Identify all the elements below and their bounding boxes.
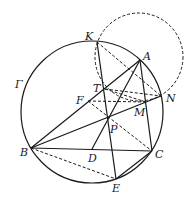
point-label-C: C (155, 148, 164, 161)
point-label-K: K (84, 30, 94, 43)
point-label-N: N (165, 92, 176, 105)
segment-BN (31, 96, 161, 148)
point-label-P: P (109, 123, 118, 136)
geometry-diagram: KATFNMPBDCEΓ (0, 0, 196, 204)
dashed-segment-TM (105, 89, 146, 102)
point-label-F: F (75, 94, 84, 107)
segment-BA (31, 60, 140, 148)
circle-circle-ktn (95, 13, 183, 101)
segment-BC (31, 148, 152, 151)
dashed-segment-KN (97, 42, 161, 96)
segment-CE (116, 151, 152, 179)
point-label-A: A (142, 50, 151, 63)
point-label-D: D (87, 152, 97, 165)
point-label-E: E (111, 182, 120, 195)
point-label-B: B (19, 146, 28, 159)
circle-gamma-label: Γ (14, 78, 23, 91)
point-label-T: T (93, 82, 102, 95)
point-label-M: M (133, 106, 146, 119)
